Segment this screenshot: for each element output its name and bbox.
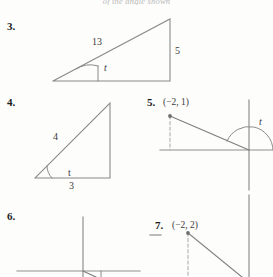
figure-problem-7 [150, 195, 273, 277]
angle-arc-5 [227, 127, 273, 150]
figure-problem-6 [0, 195, 140, 277]
label-angle-t-4: t [68, 167, 71, 178]
figure-problem-5 [150, 95, 273, 190]
plotted-point-5 [168, 114, 172, 118]
label-angle-t-3: t [104, 62, 107, 73]
plotted-point-7 [186, 231, 190, 235]
label-base-4: 3 [69, 180, 74, 191]
label-angle-t-5: t [259, 116, 262, 127]
worksheet-page: of the angle shown 3. 13 5 t 4. 4 t 3 5.… [0, 0, 273, 277]
label-hypotenuse-3: 13 [92, 36, 102, 47]
terminal-ray-7 [188, 233, 242, 277]
angle-arc-4 [47, 166, 52, 178]
terminal-ray-5 [170, 116, 249, 150]
label-hypotenuse-4: 4 [53, 131, 58, 142]
figure-problem-3 [0, 0, 273, 95]
label-vertical-side-3: 5 [175, 45, 180, 56]
triangle-4-outline [35, 103, 110, 178]
angle-arc-3 [76, 65, 98, 69]
label-point-coordinates-7: (−2, 2) [172, 220, 198, 230]
triangle-3-outline [53, 19, 170, 81]
label-point-coordinates-5: (−2, 1) [163, 97, 189, 107]
terminal-ray-6 [83, 271, 96, 277]
